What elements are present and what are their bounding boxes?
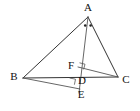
angle-dot-right-A bbox=[89, 24, 92, 27]
label-D: D bbox=[78, 74, 86, 86]
segment-BE bbox=[23, 78, 80, 89]
label-C: C bbox=[122, 73, 129, 85]
right-angle-marker-D bbox=[70, 78, 76, 85]
angle-dot-left-A bbox=[84, 24, 87, 27]
segment-AC bbox=[88, 17, 118, 77]
label-A: A bbox=[84, 1, 92, 13]
figure-canvas: A B C D E F bbox=[0, 0, 140, 111]
label-B: B bbox=[10, 70, 17, 82]
label-E: E bbox=[78, 88, 85, 100]
label-F: F bbox=[68, 59, 74, 71]
geometry-figure: A B C D E F bbox=[0, 0, 140, 111]
segment-AB bbox=[23, 17, 88, 78]
